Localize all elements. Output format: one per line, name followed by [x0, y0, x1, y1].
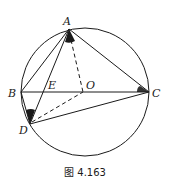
label-a: A: [62, 15, 71, 28]
label-d: D: [18, 124, 28, 137]
segment-do-dashed: [32, 92, 83, 122]
label-c: C: [152, 87, 161, 100]
segment-ab: [21, 29, 69, 92]
segment-ao-dashed: [71, 40, 83, 92]
figure-caption: 图 4.163: [64, 167, 106, 178]
label-e: E: [47, 79, 56, 92]
label-o: O: [86, 79, 95, 92]
geometry-figure: A B C D E O 图 4.163: [0, 0, 169, 182]
segment-dc: [30, 92, 149, 124]
segment-bd: [21, 92, 30, 124]
label-b: B: [7, 87, 16, 100]
segment-ad: [30, 29, 69, 124]
